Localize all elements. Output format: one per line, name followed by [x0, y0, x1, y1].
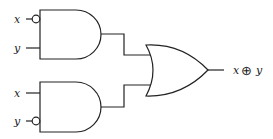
bottom-y-input: y: [13, 115, 40, 128]
and-gate-bottom: [40, 82, 101, 132]
bottom-x-label: x: [14, 87, 21, 100]
inversion-bubble-icon: [32, 15, 40, 23]
output-y-label: y: [255, 64, 263, 77]
and-gate-top: [40, 10, 101, 59]
top-y-label: y: [13, 42, 21, 55]
logic-circuit-diagram: x y x y x ⊕ y: [0, 0, 273, 139]
wire-top-to-or: [101, 34, 152, 55]
bottom-y-label: y: [13, 115, 21, 128]
circuit-canvas: x y x y x ⊕ y: [0, 0, 273, 139]
wire-bottom-to-or: [101, 85, 152, 107]
xor-symbol-icon: ⊕: [241, 63, 252, 78]
top-x-label: x: [14, 13, 21, 26]
top-y-input: y: [13, 42, 40, 55]
output-label: x ⊕ y: [233, 63, 263, 78]
bottom-x-input: x: [14, 87, 40, 100]
or-gate: [146, 45, 208, 96]
inversion-bubble-icon: [32, 117, 40, 125]
top-x-input: x: [14, 13, 40, 26]
output-x-label: x: [233, 64, 240, 77]
